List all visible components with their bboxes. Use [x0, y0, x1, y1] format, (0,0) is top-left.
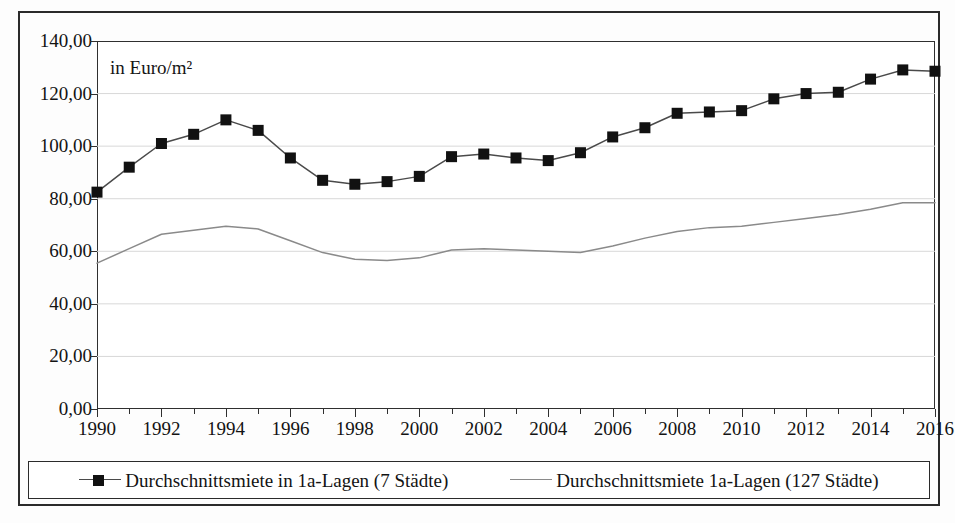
x-axis-tick-mark	[161, 409, 162, 417]
x-axis-tick-label: 1996	[271, 418, 309, 439]
x-axis-tick-label: 2004	[529, 418, 567, 439]
legend-swatch-line-icon	[510, 473, 552, 487]
x-axis-tick-mark	[194, 409, 195, 414]
x-axis-tick-label: 1994	[207, 418, 245, 439]
x-axis-tick-mark	[129, 409, 130, 414]
x-axis-tick-mark	[452, 409, 453, 414]
y-axis-tick-mark	[90, 41, 98, 42]
x-axis-tick-mark	[97, 409, 98, 417]
x-axis-tick-label: 2008	[658, 418, 696, 439]
y-axis-tick-mark	[90, 251, 98, 252]
x-axis-tick-mark	[355, 409, 356, 417]
x-axis-tick-label: 2006	[594, 418, 632, 439]
legend-label-127-staedte: Durchschnittsmiete 1a-Lagen (127 Städte)	[556, 470, 878, 491]
x-axis-tick-label: 1998	[336, 418, 374, 439]
x-axis-tick-mark	[484, 409, 485, 417]
line-chart: 140,00120,00100,0080,0060,0040,0020,000,…	[0, 0, 955, 523]
x-axis-tick-mark	[709, 409, 710, 414]
y-axis-tick-label: 20,00	[8, 346, 92, 365]
x-axis-tick-mark	[548, 409, 549, 417]
x-axis-tick-mark	[871, 409, 872, 417]
y-axis-tick-label: 60,00	[8, 241, 92, 260]
y-axis-tick-label: 80,00	[8, 189, 92, 208]
x-axis-tick-label: 2012	[787, 418, 825, 439]
x-axis-tick-mark	[419, 409, 420, 417]
plot-area-frame	[97, 41, 935, 409]
legend-entry-7-staedte: Durchschnittsmiete in 1a-Lagen (7 Städte…	[79, 470, 448, 491]
x-axis-tick-mark	[290, 409, 291, 417]
x-axis-tick-mark	[935, 409, 936, 417]
y-axis-tick-mark	[90, 304, 98, 305]
x-axis-tick-mark	[903, 409, 904, 414]
x-axis-tick-mark	[806, 409, 807, 417]
x-axis-tick-mark	[774, 409, 775, 414]
x-axis-tick-label: 2014	[852, 418, 890, 439]
x-axis-tick-mark	[387, 409, 388, 414]
y-axis-tick-label: 140,00	[8, 31, 92, 50]
legend-entry-127-staedte: Durchschnittsmiete 1a-Lagen (127 Städte)	[510, 470, 878, 491]
x-axis-tick-mark	[645, 409, 646, 414]
x-axis-tick-label: 2016	[916, 418, 954, 439]
y-axis-tick-label: 120,00	[8, 84, 92, 103]
y-axis-tick-mark	[90, 199, 98, 200]
chart-legend: Durchschnittsmiete in 1a-Lagen (7 Städte…	[28, 461, 930, 499]
x-axis-tick-mark	[742, 409, 743, 417]
y-axis-tick-label: 40,00	[8, 294, 92, 313]
legend-swatch-square-marker-icon	[79, 473, 121, 487]
x-axis-tick-mark	[516, 409, 517, 414]
x-axis-tick-mark	[323, 409, 324, 414]
figure-container: 140,00120,00100,0080,0060,0040,0020,000,…	[0, 0, 955, 523]
x-axis-tick-label: 2000	[400, 418, 438, 439]
x-axis-tick-label: 1992	[142, 418, 180, 439]
y-axis-tick-mark	[90, 356, 98, 357]
x-axis-tick-mark	[580, 409, 581, 414]
y-axis-tick-label: 0,00	[8, 399, 92, 418]
x-axis-tick-label: 2010	[723, 418, 761, 439]
x-axis-tick-label: 1990	[78, 418, 116, 439]
x-axis-tick-mark	[838, 409, 839, 414]
y-axis-tick-mark	[90, 146, 98, 147]
y-axis: 140,00120,00100,0080,0060,0040,0020,000,…	[0, 0, 92, 523]
x-axis-tick-mark	[677, 409, 678, 417]
x-axis-tick-mark	[613, 409, 614, 417]
x-axis-tick-label: 2002	[465, 418, 503, 439]
legend-label-7-staedte: Durchschnittsmiete in 1a-Lagen (7 Städte…	[125, 470, 448, 491]
y-axis-tick-mark	[90, 94, 98, 95]
y-axis-tick-label: 100,00	[8, 136, 92, 155]
unit-annotation: in Euro/m²	[110, 57, 192, 78]
x-axis-tick-mark	[226, 409, 227, 417]
x-axis-tick-mark	[258, 409, 259, 414]
